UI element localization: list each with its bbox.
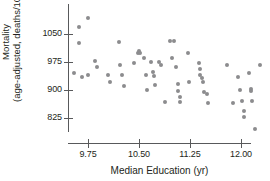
data-point bbox=[77, 25, 81, 29]
data-point bbox=[86, 16, 90, 20]
y-tick-mark bbox=[64, 34, 73, 35]
data-point bbox=[168, 39, 172, 43]
y-axis-line bbox=[68, 4, 69, 132]
data-point bbox=[106, 73, 110, 77]
data-point bbox=[149, 60, 153, 64]
data-point bbox=[132, 61, 136, 65]
data-point bbox=[118, 63, 122, 67]
y-tick-label-text: 900 bbox=[28, 85, 62, 94]
y-axis-title: Mortality (age-adjusted, deaths/100,000) bbox=[0, 0, 24, 102]
data-point bbox=[186, 51, 190, 55]
y-tick-label: 1050 bbox=[26, 29, 62, 38]
scatter-plot-figure: 8259009751050 9.7510.5011.2512.00 Median… bbox=[0, 0, 270, 181]
x-tick-label: 10.50 bbox=[119, 150, 159, 159]
data-point bbox=[120, 73, 124, 77]
data-point bbox=[153, 83, 157, 87]
data-point bbox=[152, 74, 156, 78]
data-point bbox=[231, 101, 235, 105]
data-point bbox=[72, 71, 76, 75]
data-point bbox=[95, 65, 99, 69]
data-point bbox=[122, 84, 126, 88]
y-tick-label-text: 825 bbox=[28, 113, 62, 122]
data-point bbox=[242, 115, 246, 119]
data-point bbox=[176, 89, 180, 93]
y-tick-label: 825 bbox=[26, 113, 62, 122]
data-point bbox=[187, 80, 191, 84]
data-point bbox=[198, 67, 202, 71]
data-point bbox=[205, 92, 209, 96]
x-tick-mark bbox=[241, 139, 242, 148]
data-point bbox=[138, 51, 142, 55]
data-point bbox=[206, 101, 210, 105]
y-tick-label-text: 1050 bbox=[28, 29, 62, 38]
data-point bbox=[253, 127, 257, 131]
y-axis-title-line2: (age-adjusted, deaths/100,000) bbox=[11, 0, 22, 102]
data-point bbox=[250, 99, 254, 103]
data-point bbox=[247, 71, 251, 75]
data-point bbox=[176, 82, 180, 86]
x-tick-mark bbox=[88, 139, 89, 148]
y-tick-mark bbox=[64, 62, 73, 63]
x-tick-label: 11.25 bbox=[170, 150, 210, 159]
data-point bbox=[93, 59, 97, 63]
data-point bbox=[170, 56, 174, 60]
y-tick-mark bbox=[64, 90, 73, 91]
y-tick-label-text: 975 bbox=[28, 57, 62, 66]
y-axis-title-line1: Mortality bbox=[0, 0, 11, 102]
data-point bbox=[197, 61, 201, 65]
data-point bbox=[108, 80, 112, 84]
data-point bbox=[240, 99, 244, 103]
data-point bbox=[117, 40, 121, 44]
x-tick-mark bbox=[139, 139, 140, 148]
data-point bbox=[178, 100, 182, 104]
data-point bbox=[172, 39, 176, 43]
data-point bbox=[142, 56, 146, 60]
x-axis-title: Median Education (yr) bbox=[68, 165, 251, 176]
y-tick-label: 900 bbox=[26, 85, 62, 94]
x-axis-line bbox=[68, 143, 251, 144]
data-point bbox=[225, 63, 229, 67]
data-point bbox=[159, 63, 163, 67]
y-tick-label: 975 bbox=[26, 57, 62, 66]
data-point bbox=[236, 75, 240, 79]
data-point bbox=[80, 75, 84, 79]
x-tick-label: 9.75 bbox=[68, 150, 108, 159]
data-point bbox=[86, 73, 90, 77]
x-tick-mark bbox=[190, 139, 191, 148]
data-point bbox=[174, 65, 178, 69]
data-point bbox=[238, 88, 242, 92]
data-point bbox=[242, 109, 246, 113]
x-tick-label: 12.00 bbox=[221, 150, 261, 159]
data-point bbox=[144, 73, 148, 77]
data-point bbox=[163, 100, 167, 104]
data-point bbox=[77, 41, 81, 45]
data-point bbox=[201, 80, 205, 84]
data-point bbox=[258, 63, 262, 67]
y-tick-mark bbox=[64, 118, 73, 119]
data-point bbox=[145, 88, 149, 92]
data-point bbox=[178, 95, 182, 99]
data-point bbox=[249, 89, 253, 93]
